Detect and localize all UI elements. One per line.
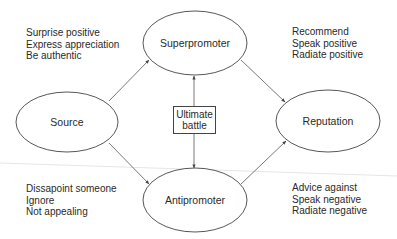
ultimate-battle-line2: battle	[174, 120, 215, 132]
note-line: Radiate negative	[292, 205, 367, 217]
note-reputation-positive: Recommend Speak positive Radiate positiv…	[292, 26, 363, 61]
note-line: Recommend	[292, 26, 363, 38]
node-reputation: Reputation	[276, 90, 380, 152]
node-superpromoter-label: Superpromoter	[160, 37, 231, 49]
node-superpromoter: Superpromoter	[143, 11, 247, 75]
note-line: Advice against	[292, 182, 367, 194]
note-line: Radiate positive	[292, 49, 363, 61]
note-line: Not appealing	[26, 206, 117, 218]
node-source: Source	[16, 92, 118, 152]
note-line: Ignore	[26, 195, 117, 207]
note-line: Speak positive	[292, 38, 363, 50]
node-antipromoter-label: Antipromoter	[165, 194, 226, 206]
node-ultimate-battle: Ultimate battle	[173, 106, 216, 134]
note-source-positive: Surprise positive Express appreciation B…	[26, 27, 119, 62]
note-reputation-negative: Advice against Speak negative Radiate ne…	[292, 182, 367, 217]
node-reputation-label: Reputation	[303, 115, 354, 127]
edge-source-to-antipromoter	[109, 143, 149, 184]
edge-antipromoter-to-reputation	[241, 141, 286, 184]
note-line: Be authentic	[26, 50, 119, 62]
ultimate-battle-line1: Ultimate	[174, 109, 215, 121]
edge-source-to-superpromoter	[109, 60, 149, 101]
node-source-label: Source	[50, 116, 83, 128]
note-line: Express appreciation	[26, 39, 119, 51]
edge-superpromoter-to-reputation	[241, 60, 285, 102]
note-line: Surprise positive	[26, 27, 119, 39]
note-source-negative: Dissapoint someone Ignore Not appealing	[26, 183, 117, 218]
note-line: Speak negative	[292, 194, 367, 206]
node-antipromoter: Antipromoter	[143, 168, 247, 232]
note-line: Dissapoint someone	[26, 183, 117, 195]
